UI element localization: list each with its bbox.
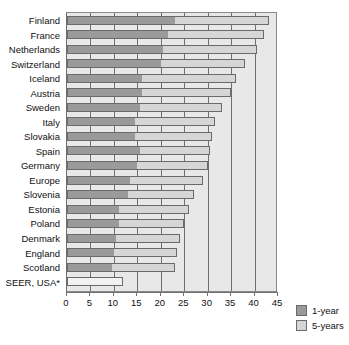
bar-row bbox=[67, 189, 194, 204]
bar-row bbox=[67, 29, 264, 44]
bar-row bbox=[67, 130, 212, 145]
category-label: Germany bbox=[0, 159, 64, 174]
category-label: Italy bbox=[0, 116, 64, 131]
category-label: Netherlands bbox=[0, 43, 64, 58]
category-label: Austria bbox=[0, 87, 64, 102]
x-axis-tick bbox=[183, 292, 184, 296]
legend-label: 5-years bbox=[312, 320, 344, 331]
x-axis-tick bbox=[277, 292, 278, 296]
category-label: Spain bbox=[0, 145, 64, 160]
bar-segment-5-years bbox=[140, 103, 222, 112]
bar-segment-5-years bbox=[130, 176, 203, 185]
category-label: France bbox=[0, 29, 64, 44]
bar-segment-1-year bbox=[67, 132, 135, 141]
x-axis-tick bbox=[66, 292, 67, 296]
bar-segment-5-years bbox=[128, 190, 194, 199]
x-axis-tick-label: 5 bbox=[79, 297, 99, 308]
x-axis-tick-label: 20 bbox=[150, 297, 170, 308]
legend-swatch-icon bbox=[296, 305, 307, 316]
category-label: Switzerland bbox=[0, 58, 64, 73]
bar-segment-1-year bbox=[67, 16, 175, 25]
category-label: Europe bbox=[0, 174, 64, 189]
bar-segment-1-year bbox=[67, 248, 114, 257]
survival-bar-chart: FinlandFranceNetherlandsSwitzerlandIcela… bbox=[0, 0, 349, 345]
x-axis-tick-label: 40 bbox=[244, 297, 264, 308]
bar-segment-5-years bbox=[119, 219, 185, 228]
category-label: Slovenia bbox=[0, 188, 64, 203]
bar-series-group bbox=[67, 13, 276, 291]
bar-segment-1-year bbox=[67, 234, 116, 243]
bar-segment-1-year bbox=[67, 190, 128, 199]
x-axis-line bbox=[66, 292, 277, 293]
bar-segment-1-year bbox=[67, 117, 135, 126]
bar-row bbox=[67, 14, 269, 29]
x-axis-tick bbox=[160, 292, 161, 296]
category-label: Poland bbox=[0, 217, 64, 232]
category-label: England bbox=[0, 247, 64, 262]
bar-segment-5-years bbox=[161, 59, 245, 68]
category-label: Denmark bbox=[0, 232, 64, 247]
x-axis-tick-label: 30 bbox=[197, 297, 217, 308]
bar-segment-1-year bbox=[67, 263, 112, 272]
bar-segment-5-years bbox=[67, 277, 123, 286]
bar-segment-1-year bbox=[67, 30, 168, 39]
legend-item: 5-years bbox=[296, 318, 344, 333]
bar-segment-5-years bbox=[175, 16, 269, 25]
x-axis-tick-label: 35 bbox=[220, 297, 240, 308]
x-axis-tick bbox=[254, 292, 255, 296]
category-label: Finland bbox=[0, 14, 64, 29]
bar-row bbox=[67, 72, 236, 87]
bar-segment-5-years bbox=[112, 263, 175, 272]
chart-legend: 1-year5-years bbox=[296, 303, 344, 333]
bar-row bbox=[67, 261, 175, 276]
x-axis-tick-label: 0 bbox=[56, 297, 76, 308]
category-label-column: FinlandFranceNetherlandsSwitzerlandIcela… bbox=[0, 14, 64, 290]
bar-segment-5-years bbox=[137, 161, 207, 170]
bar-row bbox=[67, 145, 210, 160]
bar-segment-1-year bbox=[67, 176, 130, 185]
category-label: Scotland bbox=[0, 261, 64, 276]
bar-row bbox=[67, 174, 203, 189]
bar-segment-5-years bbox=[142, 74, 236, 83]
bar-segment-1-year bbox=[67, 219, 119, 228]
bar-segment-5-years bbox=[119, 205, 189, 214]
bar-segment-5-years bbox=[135, 117, 215, 126]
bar-segment-5-years bbox=[140, 146, 210, 155]
x-axis-tick-label: 15 bbox=[126, 297, 146, 308]
bar-segment-5-years bbox=[163, 45, 257, 54]
x-axis-tick bbox=[136, 292, 137, 296]
bar-row bbox=[67, 247, 177, 262]
x-axis-tick-label: 45 bbox=[267, 297, 287, 308]
legend-swatch-icon bbox=[296, 320, 307, 331]
category-label: Sweden bbox=[0, 101, 64, 116]
bar-segment-5-years bbox=[168, 30, 264, 39]
x-axis-tick bbox=[113, 292, 114, 296]
legend-item: 1-year bbox=[296, 303, 344, 318]
bar-row bbox=[67, 101, 222, 116]
bar-row bbox=[67, 159, 208, 174]
category-label: Slovakia bbox=[0, 130, 64, 145]
category-label: Iceland bbox=[0, 72, 64, 87]
bar-segment-1-year bbox=[67, 205, 119, 214]
x-axis-tick bbox=[207, 292, 208, 296]
category-label: SEER, USA* bbox=[0, 276, 64, 291]
bar-segment-1-year bbox=[67, 161, 137, 170]
bar-segment-5-years bbox=[135, 132, 212, 141]
bar-segment-1-year bbox=[67, 146, 140, 155]
bar-row bbox=[67, 276, 123, 291]
bar-segment-5-years bbox=[116, 234, 179, 243]
legend-label: 1-year bbox=[312, 305, 339, 316]
category-label: Estonia bbox=[0, 203, 64, 218]
bar-row bbox=[67, 58, 245, 73]
bar-segment-1-year bbox=[67, 59, 161, 68]
bar-row bbox=[67, 218, 184, 233]
bar-segment-1-year bbox=[67, 45, 163, 54]
x-axis-tick bbox=[230, 292, 231, 296]
x-axis-tick-label: 10 bbox=[103, 297, 123, 308]
plot-area bbox=[66, 12, 277, 292]
bar-row bbox=[67, 203, 189, 218]
bar-segment-1-year bbox=[67, 103, 140, 112]
bar-row bbox=[67, 232, 180, 247]
bar-row bbox=[67, 87, 231, 102]
bar-row bbox=[67, 116, 215, 131]
